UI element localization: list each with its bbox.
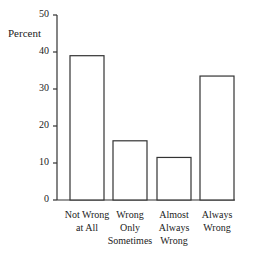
bar: [157, 157, 191, 200]
bar: [113, 141, 147, 200]
bar: [70, 56, 104, 200]
bar: [200, 76, 234, 200]
y-axis-label: Percent: [8, 27, 41, 39]
chart-plot: [0, 0, 254, 261]
